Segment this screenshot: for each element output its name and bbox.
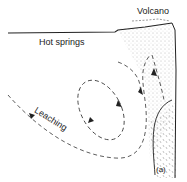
volcano-label: Volcano <box>137 6 169 16</box>
outer-flow-path <box>8 55 150 158</box>
hot-springs-label: Hot springs <box>39 37 85 47</box>
inner-convection-loop <box>68 72 133 147</box>
arrow-loop-down-icon <box>88 117 94 123</box>
mid-flow-path <box>118 62 140 92</box>
volcano-cone <box>132 19 170 21</box>
hydrothermal-diagram <box>0 0 187 182</box>
arrow-down-icon <box>138 87 143 95</box>
panel-label: (a) <box>156 165 166 174</box>
